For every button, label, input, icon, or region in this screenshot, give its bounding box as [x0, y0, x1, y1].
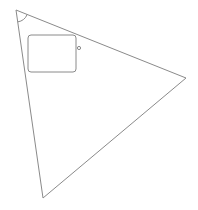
small-circle-point: [77, 46, 80, 49]
geometry-diagram: [0, 0, 198, 210]
triangle: [16, 10, 186, 198]
diagram-svg: [0, 0, 198, 210]
angle-arc: [18, 14, 27, 21]
rounded-rectangle: [28, 35, 76, 72]
